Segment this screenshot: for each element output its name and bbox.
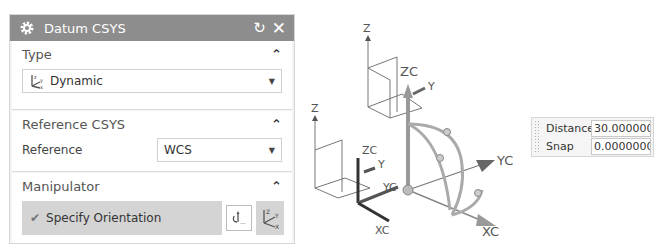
- svg-text:X: X: [275, 223, 279, 229]
- gear-icon: [20, 21, 34, 35]
- csys-dialog-button[interactable]: ...: [226, 205, 252, 231]
- type-section: Type ⌃ z y x Dynamic ▼: [12, 41, 292, 110]
- distance-label: Distance: [546, 122, 591, 135]
- svg-text:z: z: [34, 74, 37, 80]
- reference-label: Reference: [22, 143, 157, 157]
- z-axis-label-upper: Z: [363, 22, 371, 35]
- zc-label-upper: ZC: [400, 64, 418, 79]
- datum-csys-dialog: Datum CSYS ↻ ✕ Type ⌃ z y x Dynamic ▼ Re…: [9, 14, 295, 244]
- reference-dropdown[interactable]: WCS ▼: [157, 138, 282, 162]
- distance-input[interactable]: 30.000000: [591, 120, 651, 137]
- svg-text:x: x: [40, 84, 43, 89]
- distance-row: Distance 30.000000: [546, 120, 651, 136]
- type-dropdown[interactable]: z y x Dynamic ▼: [22, 69, 282, 93]
- drag-handle[interactable]: [534, 120, 540, 154]
- reference-csys-label: Reference CSYS: [22, 117, 125, 132]
- svg-text:Z: Z: [266, 208, 270, 215]
- reference-row: Reference WCS ▼: [12, 137, 292, 163]
- type-section-label: Type: [22, 47, 52, 62]
- dynamic-manipulator[interactable]: [403, 84, 496, 226]
- z-axis-label-lower: Z: [311, 102, 319, 115]
- xc-label-lower: XC: [375, 224, 390, 237]
- specify-orientation-button[interactable]: ✔ Specify Orientation: [22, 201, 222, 235]
- reference-csys-section: Reference CSYS ⌃ Reference WCS ▼: [12, 111, 292, 172]
- reset-icon[interactable]: ↻: [253, 19, 266, 37]
- collapse-caret-icon[interactable]: ⌃: [271, 117, 282, 132]
- type-section-header[interactable]: Type ⌃: [12, 41, 292, 67]
- wcs-lower-wireframe: [315, 118, 370, 198]
- reference-dropdown-value: WCS: [164, 143, 192, 157]
- dialog-titlebar[interactable]: Datum CSYS ↻ ✕: [10, 15, 294, 41]
- snap-row: Snap 0.0000000: [546, 138, 651, 154]
- dynamic-csys-icon: z y x: [28, 73, 46, 89]
- svg-text:y: y: [40, 77, 43, 84]
- close-icon[interactable]: ✕: [272, 18, 286, 38]
- specify-orientation-label: Specify Orientation: [46, 211, 161, 225]
- collapse-caret-icon[interactable]: ⌃: [271, 47, 282, 62]
- csys-dialog-icon: ...: [230, 210, 248, 226]
- collapse-caret-icon[interactable]: ⌃: [271, 179, 282, 194]
- distance-input-box: Distance 30.000000 Snap 0.0000000: [531, 117, 654, 157]
- yc-label-lower: YC: [382, 181, 397, 194]
- snap-input[interactable]: 0.0000000: [591, 138, 651, 155]
- y-label-upper: Y: [427, 80, 435, 93]
- svg-text:Y: Y: [274, 212, 279, 219]
- graphics-viewport[interactable]: Z ZC Y Z ZC Y YC XC YC XC: [300, 0, 530, 249]
- snap-label: Snap: [546, 140, 591, 153]
- type-dropdown-value: Dynamic: [50, 74, 103, 88]
- csys-axes-icon: Z Y X: [259, 207, 281, 229]
- checkmark-icon: ✔: [30, 211, 40, 225]
- y-label-lower: Y: [377, 158, 385, 171]
- dialog-title: Datum CSYS: [44, 21, 253, 36]
- reference-csys-header[interactable]: Reference CSYS ⌃: [12, 111, 292, 137]
- manipulator-label: Manipulator: [22, 179, 100, 194]
- zc-label-lower: ZC: [362, 144, 378, 157]
- yc-label-main: YC: [496, 153, 513, 168]
- svg-text:...: ...: [240, 218, 246, 225]
- dropdown-arrow-icon: ▼: [269, 77, 275, 86]
- manipulator-section: Manipulator ⌃ ✔ Specify Orientation ...: [12, 173, 292, 243]
- manipulator-header[interactable]: Manipulator ⌃: [12, 173, 292, 199]
- orient-to-csys-button[interactable]: Z Y X: [256, 201, 284, 235]
- xc-label-main: XC: [482, 224, 499, 239]
- dropdown-arrow-icon: ▼: [269, 146, 275, 155]
